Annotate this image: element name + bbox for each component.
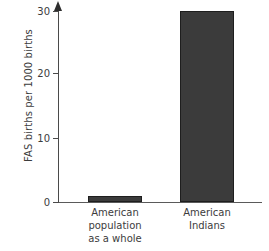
y-tick-30	[53, 11, 59, 12]
bar-chart: FAS births per 1000 births 0 10 20 30 Am…	[0, 0, 269, 251]
y-tick-label-0: 0	[6, 197, 50, 208]
y-tick-label-30: 30	[6, 6, 50, 17]
bar-american-indians	[180, 11, 234, 202]
x-category-label-line: as a whole	[62, 232, 168, 245]
x-category-label-line: American	[62, 206, 168, 219]
y-axis-line	[58, 9, 59, 203]
y-tick-20	[53, 73, 59, 74]
y-tick-0	[53, 202, 59, 203]
y-tick-10	[53, 138, 59, 139]
y-axis-arrowhead-icon	[54, 1, 62, 11]
x-category-label-line: American	[154, 206, 260, 219]
y-axis-title: FAS births per 1000 births	[23, 16, 34, 176]
x-category-label-american-indians: AmericanIndians	[154, 206, 260, 232]
x-category-label-american-population: Americanpopulationas a whole	[62, 206, 168, 245]
x-axis-line	[58, 202, 262, 203]
bar-american-population	[88, 196, 142, 202]
y-tick-label-10: 10	[6, 133, 50, 144]
y-tick-label-20: 20	[6, 68, 50, 79]
x-category-label-line: population	[62, 219, 168, 232]
x-category-label-line: Indians	[154, 219, 260, 232]
